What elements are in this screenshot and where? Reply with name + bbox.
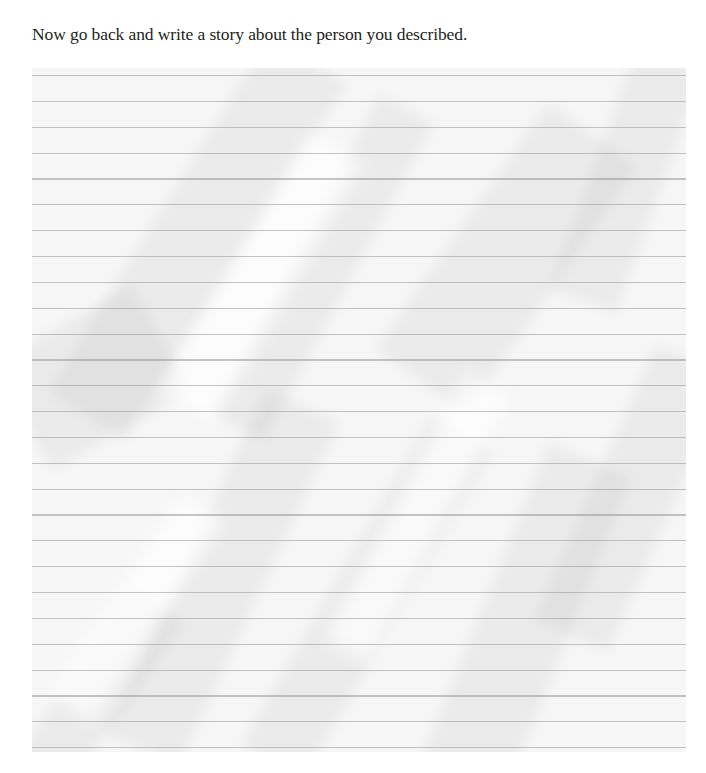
writing-prompt: Now go back and write a story about the … <box>32 24 467 45</box>
story-writing-area[interactable] <box>32 68 686 752</box>
lined-paper <box>32 68 686 752</box>
